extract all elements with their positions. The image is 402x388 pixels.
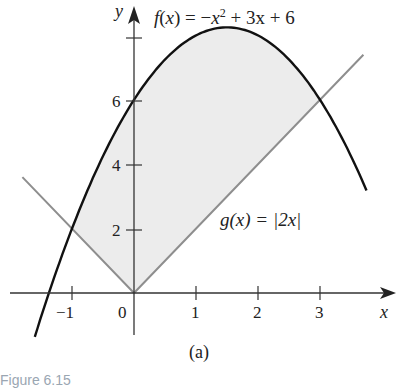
y-tick-label: 2 [112,221,121,240]
y-tick-label: 6 [112,92,121,111]
y-axis-label: y [113,1,123,21]
shaded-region [72,27,320,293]
x-tick-label: 0 [118,303,127,322]
x-tick-label: 1 [191,303,200,322]
f-function-label: f(x) = −x2 + 3x + 6 [154,6,295,29]
y-tick-label: 4 [112,156,121,175]
x-tick-label: 2 [253,303,262,322]
figure-caption: Figure 6.15 [0,372,71,388]
x-axis-label: x [379,302,388,322]
g-function-label: g(x) = |2x| [220,209,301,231]
panel-label: (a) [189,342,209,363]
x-tick-label: −1 [56,303,74,322]
x-tick-label: 3 [315,303,324,322]
